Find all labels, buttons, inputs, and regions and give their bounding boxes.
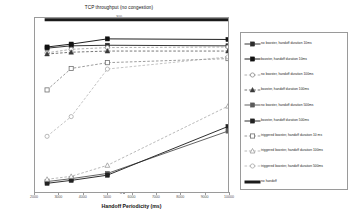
legend-item[interactable]: triggered booster, handoff duration 100m… xyxy=(244,144,348,158)
chart-title: TCP throughput (no congestion) xyxy=(0,5,238,10)
legend-label: booster, handoff duration 100ms xyxy=(261,88,309,91)
chart-legend: no booster, handoff duration 10msbooster… xyxy=(240,32,348,190)
x-tick-label: 9000 xyxy=(193,195,217,199)
x-tick-label: 3000 xyxy=(46,195,70,199)
x-tick-label: 8000 xyxy=(168,195,192,199)
legend-label: no booster, handoff duration 100ms xyxy=(261,73,314,76)
legend-item[interactable]: triggered booster, handoff duration 10 m… xyxy=(244,129,348,143)
x-tick-label: 4000 xyxy=(71,195,95,199)
x-tick-label: 2000 xyxy=(22,195,46,199)
plot-canvas xyxy=(35,18,228,192)
plot-area xyxy=(34,17,229,193)
legend-label: triggered booster, handoff duration 100m… xyxy=(261,149,323,152)
legend-label: no booster, handoff duration 10ms xyxy=(261,42,312,45)
x-tick-label: 6000 xyxy=(120,195,144,199)
legend-label: booster, handoff duration 10ms xyxy=(261,58,307,61)
legend-label: triggered booster, handoff duration 10 m… xyxy=(261,134,322,137)
x-tick-label: 7000 xyxy=(144,195,168,199)
legend-symbol xyxy=(244,177,261,187)
legend-symbol xyxy=(244,54,261,64)
legend-symbol xyxy=(244,146,261,156)
legend-label: triggered booster, handoff duration 500m… xyxy=(261,165,323,168)
series-6 xyxy=(45,57,228,92)
legend-item[interactable]: triggered booster, handoff duration 500m… xyxy=(244,159,348,173)
legend-label: no booster, handoff duration 500ms xyxy=(261,104,314,107)
legend-symbol xyxy=(244,39,261,49)
legend-item[interactable]: no booster, handoff duration 500ms xyxy=(244,98,348,112)
x-axis-label: Handoff Periodicity (ms) xyxy=(34,203,229,209)
legend-symbol xyxy=(244,85,261,95)
legend-symbol xyxy=(244,116,261,126)
legend-item[interactable]: no booster, handoff duration 100ms xyxy=(244,68,348,82)
legend-symbol xyxy=(244,70,261,80)
x-tick-label: 5000 xyxy=(95,195,119,199)
x-tick-label: 10000 xyxy=(217,195,241,199)
legend-item[interactable]: no booster, handoff duration 10ms xyxy=(244,37,348,51)
legend-item[interactable]: booster, handoff duration 500ms xyxy=(244,114,348,128)
legend-item[interactable]: booster, handoff duration 10ms xyxy=(244,52,348,66)
legend-item[interactable]: no handoff xyxy=(244,175,348,189)
legend-label: no handoff xyxy=(261,180,277,183)
legend-item[interactable]: booster, handoff duration 100ms xyxy=(244,83,348,97)
chart-figure: TCP throughput (no congestion) Throughpu… xyxy=(0,0,353,222)
legend-symbol xyxy=(244,161,261,171)
legend-label: booster, handoff duration 500ms xyxy=(261,119,309,122)
legend-symbol xyxy=(244,100,261,110)
legend-symbol xyxy=(244,131,261,141)
